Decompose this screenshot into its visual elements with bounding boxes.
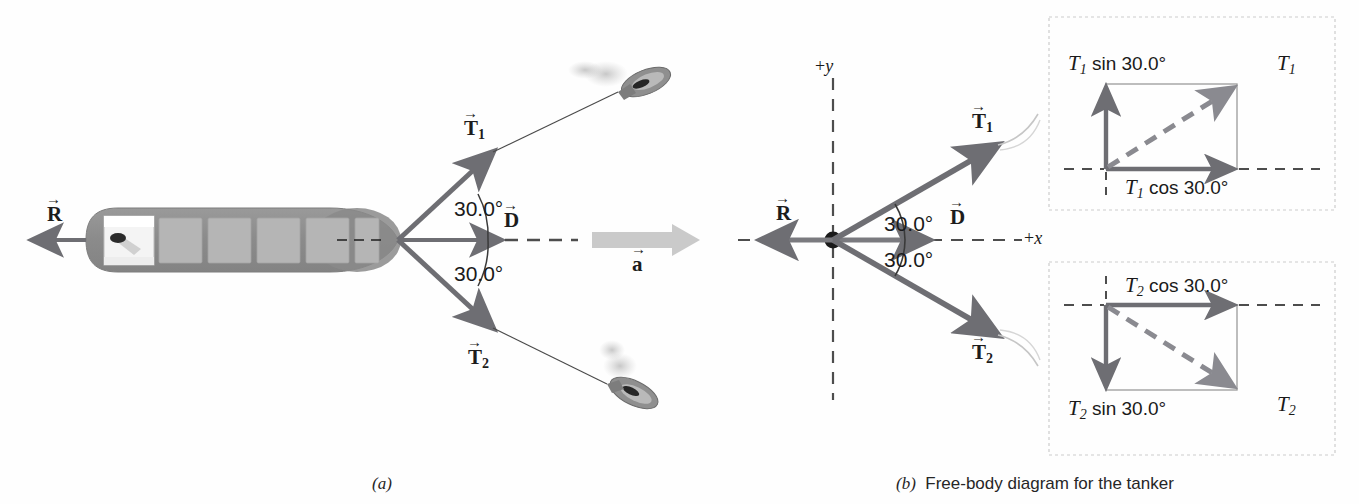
- label-T1-cos-component: T1 cos 30.0°: [1125, 175, 1228, 202]
- axis-label-y: +y: [815, 56, 833, 77]
- angle-label-upper-b: 30.0°: [884, 212, 933, 236]
- label-T2-sin-component: T2 sin 30.0°: [1068, 396, 1166, 423]
- label-T1-sin-component: T1 sin 30.0°: [1068, 51, 1166, 78]
- label-vector-D-b: → D: [950, 205, 965, 230]
- physics-figure: → R → T1 → T2 → D → a 30.0° 30.0° (a) +y: [0, 0, 1359, 504]
- label-T2-resultant: T2: [1277, 392, 1296, 419]
- axis-label-x: +x: [1024, 228, 1042, 249]
- resultant-arrow-T2: [1108, 307, 1233, 386]
- label-vector-R-a: → R: [47, 202, 62, 227]
- label-vector-D-a: → D: [504, 208, 519, 233]
- leader-curve-T1: [998, 114, 1038, 145]
- leader-curve-T2: [998, 335, 1038, 366]
- panel-b-graphics: [738, 78, 1040, 400]
- label-vector-a-a: → a: [632, 252, 643, 277]
- tugboat-lower: [599, 340, 663, 415]
- towline-lower: [493, 328, 607, 384]
- tanker-bridge: [104, 216, 154, 265]
- tugboat-upper: [568, 61, 675, 103]
- tanker-hull: [86, 208, 401, 272]
- caption-panel-a: (a): [372, 474, 392, 494]
- vector-a-block-arrow: [592, 224, 700, 256]
- resultant-arrow-T1: [1108, 88, 1233, 167]
- towline-upper: [493, 92, 618, 152]
- label-T2-cos-component: T2 cos 30.0°: [1125, 273, 1228, 300]
- label-vector-R-b: → R: [776, 201, 791, 226]
- label-T1-resultant: T1: [1277, 51, 1296, 78]
- label-vector-T1-b: → T1: [972, 109, 993, 136]
- label-vector-T2-b: → T2: [972, 340, 993, 367]
- angle-label-lower-b: 30.0°: [884, 248, 933, 272]
- caption-panel-b: (b) Free-body diagram for the tanker: [896, 474, 1174, 494]
- panel-a-graphics: [33, 61, 700, 415]
- label-vector-T2-a: → T2: [468, 345, 489, 372]
- angle-label-lower-a: 30.0°: [454, 262, 503, 286]
- label-vector-T1-a: → T1: [464, 116, 485, 143]
- angle-label-upper-a: 30.0°: [454, 197, 503, 221]
